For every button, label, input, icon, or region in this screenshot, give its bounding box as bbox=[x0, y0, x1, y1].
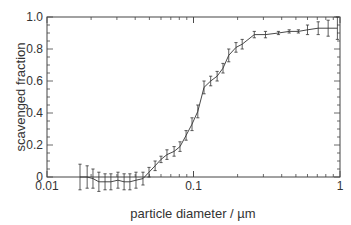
data-line bbox=[80, 28, 337, 182]
x-tick-label: 0.1 bbox=[185, 179, 202, 193]
y-tick-label: 0.8 bbox=[26, 42, 43, 56]
axis-ticks bbox=[47, 17, 340, 177]
error-bars bbox=[78, 17, 339, 191]
y-tick-labels: 00.20.40.60.81.0 bbox=[26, 10, 43, 184]
y-axis-label: scavenged fraction bbox=[13, 42, 28, 151]
plot-frame bbox=[47, 17, 340, 177]
y-tick-label: 0.4 bbox=[26, 106, 43, 120]
y-tick-label: 1.0 bbox=[26, 10, 43, 24]
x-tick-label: 1 bbox=[337, 179, 344, 193]
x-axis-label: particle diameter / µm bbox=[130, 206, 255, 221]
x-tick-label: 0.01 bbox=[35, 179, 59, 193]
chart: 00.20.40.60.81.0 0.010.11 particle diame… bbox=[0, 0, 351, 225]
y-tick-label: 0.2 bbox=[26, 138, 43, 152]
y-tick-label: 0.6 bbox=[26, 74, 43, 88]
x-tick-labels: 0.010.11 bbox=[35, 179, 343, 193]
